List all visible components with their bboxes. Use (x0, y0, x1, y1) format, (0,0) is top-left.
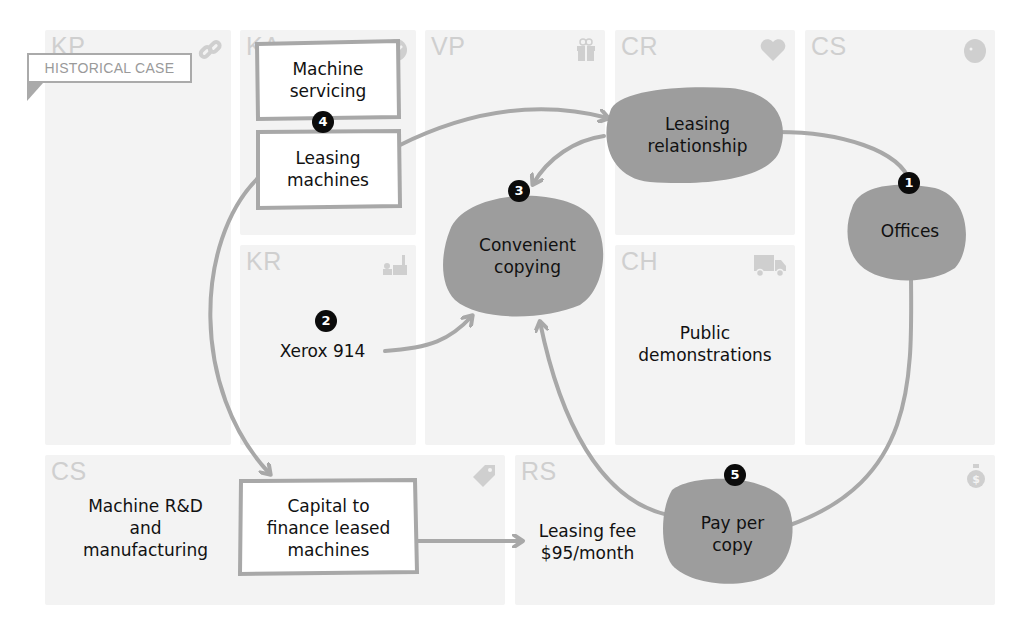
edge-relationship-to-offices (778, 132, 910, 182)
node-capital: Capital to finance leased machines (240, 495, 417, 561)
node-leasing-fee: Leasing fee $95/month (520, 520, 655, 564)
step-badge-1: 1 (898, 172, 920, 194)
node-convenient-copying: Convenient copying (445, 234, 610, 278)
step-badge-4: 4 (312, 111, 334, 133)
edge-leasing-machines-to-capital (210, 178, 270, 474)
node-leasing-machines: Leasing machines (258, 147, 398, 191)
node-machine-rd: Machine R&D and manufacturing (58, 495, 233, 561)
node-offices: Offices (850, 220, 970, 242)
node-machine-servicing: Machine servicing (258, 58, 398, 102)
edge-offices-to-pay (790, 278, 911, 525)
edge-leasing-machines-to-relationship (398, 109, 608, 146)
node-xerox-914: Xerox 914 (255, 340, 390, 362)
step-badge-2: 2 (315, 310, 337, 332)
edge-relationship-to-copying (533, 136, 604, 184)
node-public-demonstrations: Public demonstrations (605, 322, 805, 366)
step-badge-5: 5 (724, 464, 746, 486)
step-badge-3: 3 (508, 180, 530, 202)
node-pay-per-copy: Pay per copy (665, 512, 800, 556)
edge-xerox-to-copying (385, 316, 472, 351)
node-leasing-relationship: Leasing relationship (615, 113, 780, 157)
